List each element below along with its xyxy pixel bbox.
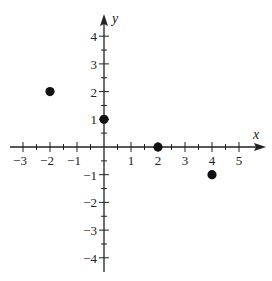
x-tick-label: 3: [182, 153, 189, 168]
x-tick-label: 2: [155, 153, 162, 168]
x-axis-label: x: [252, 127, 260, 142]
data-point: [207, 170, 216, 179]
y-tick-label: −2: [83, 195, 97, 210]
y-tick-label: −4: [83, 251, 97, 266]
y-tick-label: 3: [91, 57, 98, 72]
data-point: [99, 115, 108, 124]
x-tick-label: −3: [13, 153, 27, 168]
x-tick-label: −2: [40, 153, 54, 168]
y-tick-label: −1: [83, 168, 97, 183]
y-tick-label: 2: [91, 85, 98, 100]
y-tick-label: 4: [91, 29, 98, 44]
scatter-plot: −3−2−112345−4−3−2−11234xy: [0, 0, 272, 281]
y-tick-label: −3: [83, 223, 97, 238]
x-tick-label: 5: [236, 153, 243, 168]
data-point: [45, 87, 54, 96]
coordinate-plane: −3−2−112345−4−3−2−11234xy: [0, 0, 272, 281]
data-point: [153, 142, 162, 151]
x-tick-label: −1: [67, 153, 81, 168]
y-tick-label: 1: [91, 112, 98, 127]
x-tick-label: 4: [209, 153, 216, 168]
y-axis-label: y: [110, 11, 119, 26]
x-tick-label: 1: [128, 153, 135, 168]
